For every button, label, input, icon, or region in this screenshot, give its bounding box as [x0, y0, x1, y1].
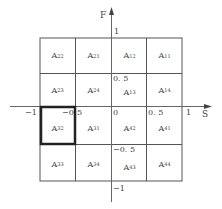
quadrant-diagram: A22 A21 A12 A11 A23 A24 A13 A14 A32 A31 … [0, 0, 222, 209]
x-tick-0: 0 [113, 109, 118, 117]
grid-lines [0, 0, 222, 209]
x-tick-neg-0-5-tail: 5 [77, 109, 82, 117]
y-axis-arrow-icon [109, 7, 114, 15]
cell-a21: A21 [76, 38, 111, 73]
x-tick-1: 1 [186, 109, 191, 117]
x-axis-label: S [202, 110, 208, 119]
cell-a11: A11 [147, 38, 182, 73]
cell-a44: A44 [147, 147, 182, 181]
cell-a14: A14 [147, 74, 182, 106]
cell-a34: A34 [76, 147, 111, 181]
cell-a22: A22 [40, 38, 75, 73]
cell-a12: A12 [112, 38, 147, 73]
cell-a24: A24 [76, 74, 111, 106]
x-tick-neg-1: −1 [25, 109, 37, 117]
y-tick-1: 1 [114, 28, 119, 36]
x-tick-neg-0-5: −0 [62, 109, 74, 117]
cell-a33: A33 [40, 147, 75, 181]
cell-a23: A23 [40, 74, 75, 106]
y-axis-label: F [100, 11, 106, 20]
y-tick-neg-1: −1 [113, 185, 125, 193]
y-tick-neg-0-5: −0. 5 [113, 146, 135, 154]
cell-a43: A43 [112, 150, 147, 184]
x-tick-0-5: 0. 5 [148, 109, 163, 117]
y-tick-0-5: 0. 5 [113, 75, 128, 83]
